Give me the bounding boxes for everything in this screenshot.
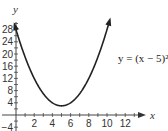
- y-tick-label: 8: [7, 85, 13, 96]
- x-tick-label: 8: [86, 118, 92, 129]
- y-tick-label: 16: [2, 61, 14, 72]
- y-tick-label: −4: [2, 122, 14, 131]
- equation-label: y = (x − 5)² + 3: [118, 52, 168, 65]
- x-tick-label: 10: [101, 118, 113, 129]
- x-tick-label: 4: [50, 118, 56, 129]
- y-tick-label: 24: [2, 36, 14, 47]
- parabola-curve: [16, 23, 109, 105]
- axes: [2, 22, 146, 131]
- y-tick-label: 28: [2, 24, 14, 35]
- x-tick-label: 2: [31, 118, 37, 129]
- x-axis-arrow-icon: [138, 112, 146, 118]
- x-tick-label: 12: [120, 118, 132, 129]
- y-tick-label: 12: [2, 73, 14, 84]
- y-tick-label: 20: [2, 49, 14, 60]
- parabola-graph: 24681012−4481216202428 x y y = (x − 5)² …: [0, 0, 168, 131]
- y-axis-label: y: [12, 3, 18, 15]
- x-axis-label: x: [149, 109, 155, 121]
- curve-arrow-up-right-icon: [105, 18, 111, 27]
- x-tick-label: 6: [68, 118, 74, 129]
- y-tick-label: 4: [7, 97, 13, 108]
